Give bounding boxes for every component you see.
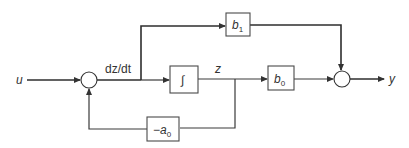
block-diagram: b1 ∫ b0 −a0 u dz/dt z y	[0, 0, 409, 148]
b0-block: b0	[268, 66, 294, 90]
derivative-label: dz/dt	[105, 62, 132, 76]
input-label: u	[16, 73, 23, 87]
state-label: z	[214, 62, 221, 76]
output-label: y	[388, 72, 396, 86]
b1-output-wire	[250, 25, 341, 70]
integrator-block: ∫	[170, 66, 198, 93]
feedback-gain-block: −a0	[147, 117, 179, 141]
feedback-return-wire	[89, 89, 147, 129]
b1-block: b1	[226, 13, 250, 36]
sum-output-junction	[334, 71, 350, 87]
sum-input-junction	[81, 72, 97, 88]
integral-icon: ∫	[180, 73, 185, 87]
